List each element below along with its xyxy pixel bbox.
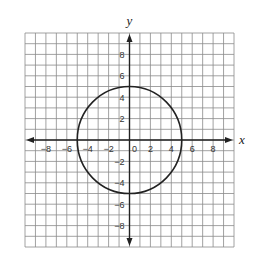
x-tick-label: 8 xyxy=(211,144,216,154)
y-axis-arrow-down-icon xyxy=(127,238,133,246)
y-tick-label: 2 xyxy=(119,114,124,124)
y-tick-label: −4 xyxy=(114,178,124,188)
axes xyxy=(26,34,233,246)
x-tick-label: −4 xyxy=(83,144,93,154)
y-tick-label: 8 xyxy=(119,50,124,60)
x-tick-label: 6 xyxy=(190,144,195,154)
x-tick-label: −6 xyxy=(62,144,72,154)
x-tick-label: 4 xyxy=(169,144,174,154)
coordinate-plane: −8−6−4−202468 −8−6−4−22468 x y xyxy=(0,0,259,260)
y-axis-label: y xyxy=(125,13,133,28)
y-tick-label: −2 xyxy=(114,157,124,167)
x-tick-label: −2 xyxy=(103,144,113,154)
y-tick-label: −6 xyxy=(114,200,124,210)
y-axis-arrow-up-icon xyxy=(127,34,133,42)
x-tick-labels: −8−6−4−202468 xyxy=(41,144,216,154)
x-axis-label: x xyxy=(238,132,245,147)
x-tick-label: 0 xyxy=(132,144,137,154)
x-tick-label: 2 xyxy=(148,144,153,154)
y-tick-label: 6 xyxy=(119,71,124,81)
y-tick-label: 4 xyxy=(119,93,124,103)
x-axis-arrow-left-icon xyxy=(26,137,34,143)
x-axis-arrow-right-icon xyxy=(225,137,233,143)
y-tick-label: −8 xyxy=(114,221,124,231)
x-tick-label: −8 xyxy=(41,144,51,154)
